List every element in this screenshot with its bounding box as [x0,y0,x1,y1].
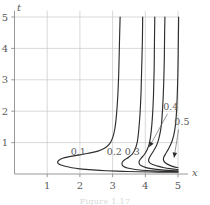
x-tick-label: 4 [142,180,148,191]
y-axis-label: t [17,2,22,13]
curve-0-3 [139,17,178,171]
y-tick-label: 4 [2,43,8,54]
figure-container: 1234512345 0.10.20.30.40.5 x t Figure 1.… [0,0,210,205]
curve-label-0-3: 0.3 [125,146,140,157]
curve-label-0-1: 0.1 [71,146,86,157]
y-tick-label: 1 [2,137,8,148]
curve-labels: 0.10.20.30.40.5 [71,101,190,158]
y-tick-label: 3 [2,74,8,85]
x-tick-label: 3 [109,180,115,191]
y-tick-label: 2 [2,106,8,117]
curve-label-0-4: 0.4 [163,101,178,112]
figure-caption: Figure 1.17 [0,197,210,205]
characteristics-plot: 1234512345 0.10.20.30.40.5 x t [0,0,210,205]
y-tick-label: 5 [2,12,8,23]
x-tick-label: 1 [44,180,50,191]
x-tick-label: 5 [175,180,181,191]
arrowhead-0-5 [173,152,178,157]
x-axis-label: x [192,167,198,178]
x-tick-label: 2 [77,180,83,191]
curve-label-0-5: 0.5 [174,116,189,127]
curve-label-0-2: 0.2 [107,146,122,157]
